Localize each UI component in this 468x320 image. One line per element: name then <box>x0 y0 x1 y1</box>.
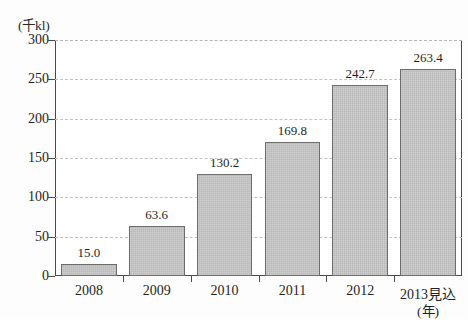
y-axis-tick-label: 200 <box>5 111 49 127</box>
bar-group: 63.6 <box>123 40 191 276</box>
y-axis-tick-mark <box>48 237 55 238</box>
bar[interactable] <box>265 142 321 276</box>
bar-value-label: 130.2 <box>191 155 259 171</box>
x-axis-category-label: 2009 <box>123 283 191 299</box>
x-axis-category-label: 2011 <box>259 283 327 299</box>
bar[interactable] <box>400 69 456 276</box>
y-axis-tick-label: 0 <box>5 268 49 284</box>
x-axis-tick-mark <box>394 276 395 282</box>
x-axis-tick-mark <box>123 276 124 282</box>
y-axis-tick-mark <box>48 40 55 41</box>
x-axis-category-label: 2010 <box>191 283 259 299</box>
bar-group: 130.2 <box>191 40 259 276</box>
x-axis-tick-mark <box>326 276 327 282</box>
y-axis-tick-label: 250 <box>5 71 49 87</box>
bar[interactable] <box>129 226 185 276</box>
bar-value-label: 169.8 <box>259 123 327 139</box>
bar[interactable] <box>61 264 117 276</box>
bar[interactable] <box>197 174 253 276</box>
bar-group: 263.4 <box>394 40 462 276</box>
bar-value-label: 242.7 <box>326 66 394 82</box>
y-axis-tick-mark <box>48 158 55 159</box>
x-axis-unit-label: (年) <box>394 300 462 320</box>
y-axis-tick-mark <box>48 276 55 277</box>
y-axis-tick-mark <box>48 79 55 80</box>
bar-group: 15.0 <box>55 40 123 276</box>
bar-group: 242.7 <box>326 40 394 276</box>
y-axis-tick-label: 50 <box>5 229 49 245</box>
bar-value-label: 263.4 <box>394 50 462 66</box>
y-axis-tick-label: 150 <box>5 150 49 166</box>
y-axis-tick-mark <box>48 119 55 120</box>
x-axis-tick-mark <box>191 276 192 282</box>
bar-value-label: 63.6 <box>123 207 191 223</box>
y-axis-tick-mark <box>48 197 55 198</box>
y-axis-tick-label: 100 <box>5 189 49 205</box>
x-axis-category-label: 2008 <box>55 283 123 299</box>
x-axis-tick-mark <box>259 276 260 282</box>
x-axis-category-label: 2012 <box>326 283 394 299</box>
y-axis-tick-label: 300 <box>5 32 49 48</box>
bar[interactable] <box>332 85 388 276</box>
bars-layer: 15.063.6130.2169.8242.7263.4 <box>55 40 462 276</box>
bar-value-label: 15.0 <box>55 245 123 261</box>
y-axis-unit-label: (千kl) <box>18 14 50 34</box>
bar-group: 169.8 <box>259 40 327 276</box>
